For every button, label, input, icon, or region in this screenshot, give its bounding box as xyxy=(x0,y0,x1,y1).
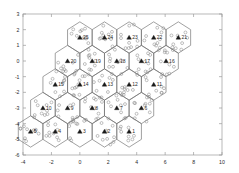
x-tick-label: -4 xyxy=(21,159,26,165)
cell-id-label: 13 xyxy=(108,81,114,87)
cell-id-label: 20 xyxy=(71,58,77,64)
user-equipment-marker xyxy=(148,111,151,114)
user-equipment-marker xyxy=(87,42,90,45)
user-equipment-marker xyxy=(149,68,152,71)
user-equipment-marker xyxy=(47,124,50,127)
base-station-marker xyxy=(151,35,156,39)
user-equipment-marker xyxy=(57,115,60,118)
user-equipment-marker xyxy=(111,45,114,48)
cell-id-label: 14 xyxy=(83,81,89,87)
cell-id-label: 25 xyxy=(83,34,89,40)
user-equipment-marker xyxy=(111,124,114,127)
user-equipment-marker xyxy=(36,104,39,107)
user-equipment-marker xyxy=(128,24,131,27)
user-equipment-marker xyxy=(54,123,57,126)
y-tick-label: -3 xyxy=(15,105,20,111)
user-equipment-marker xyxy=(108,65,111,68)
user-equipment-marker xyxy=(102,24,105,27)
user-equipment-marker xyxy=(108,53,111,56)
user-equipment-marker xyxy=(25,140,28,143)
user-equipment-marker xyxy=(144,70,147,73)
user-equipment-marker xyxy=(128,41,131,44)
user-equipment-marker xyxy=(120,37,123,40)
user-equipment-marker xyxy=(106,137,109,140)
user-equipment-marker xyxy=(115,94,118,97)
user-equipment-marker xyxy=(84,100,87,103)
user-equipment-marker xyxy=(51,77,54,80)
user-equipment-marker xyxy=(40,112,43,115)
user-equipment-marker xyxy=(181,42,184,45)
user-equipment-marker xyxy=(145,79,148,82)
user-equipment-marker xyxy=(101,138,104,141)
user-equipment-marker xyxy=(49,81,52,84)
cell-id-label: 6 xyxy=(145,105,148,111)
user-equipment-marker xyxy=(95,118,98,121)
user-equipment-marker xyxy=(81,75,84,78)
user-equipment-marker xyxy=(47,120,50,123)
user-equipment-marker xyxy=(84,97,87,100)
y-tick-label: -4 xyxy=(15,121,20,127)
user-equipment-marker xyxy=(136,45,139,48)
base-station-marker xyxy=(127,129,132,133)
cell-id-label: 16 xyxy=(169,58,175,64)
user-equipment-marker xyxy=(101,100,104,103)
user-equipment-marker xyxy=(100,122,103,125)
user-equipment-marker xyxy=(96,134,99,137)
x-tick-label: 6 xyxy=(164,159,167,165)
y-tick-label: 2 xyxy=(17,27,20,33)
user-equipment-marker xyxy=(70,32,73,35)
user-equipment-marker xyxy=(149,53,152,56)
base-station-marker xyxy=(102,129,107,133)
user-equipment-marker xyxy=(60,67,63,70)
base-station-group: 2524232221201918171615141312111098765432… xyxy=(28,34,187,134)
user-equipment-marker xyxy=(126,89,129,92)
base-station-marker xyxy=(139,106,144,110)
base-station-marker xyxy=(127,82,132,86)
base-station-marker xyxy=(114,106,119,110)
cell-id-label: 8 xyxy=(95,105,98,111)
user-equipment-marker xyxy=(56,136,59,139)
user-equipment-marker xyxy=(113,48,116,51)
user-equipment-marker xyxy=(26,128,29,131)
base-station-marker xyxy=(53,82,58,86)
y-tick-label: 3 xyxy=(17,11,20,17)
base-station-marker xyxy=(78,129,83,133)
user-equipment-marker xyxy=(48,134,51,137)
y-tick-label: 1 xyxy=(17,42,20,48)
y-tick-label: -6 xyxy=(15,152,20,158)
user-equipment-marker xyxy=(113,136,116,139)
user-equipment-marker xyxy=(95,89,98,92)
x-tick-label: 10 xyxy=(219,159,225,165)
user-equipment-marker xyxy=(172,43,175,46)
user-equipment-marker xyxy=(57,139,60,142)
cell-id-label: 15 xyxy=(58,81,64,87)
user-equipment-marker xyxy=(56,109,59,112)
x-tick-label: 4 xyxy=(135,159,138,165)
user-equipment-marker xyxy=(116,98,119,101)
user-equipment-marker xyxy=(110,105,113,108)
user-equipment-marker xyxy=(64,75,67,78)
x-tick-label: 8 xyxy=(192,159,195,165)
user-equipment-marker xyxy=(100,31,103,34)
user-equipment-marker xyxy=(145,35,148,38)
cell-id-label: 17 xyxy=(145,58,151,64)
user-equipment-marker xyxy=(111,30,114,33)
user-equipment-marker xyxy=(106,91,109,94)
base-station-marker xyxy=(164,59,169,63)
user-equipment-marker xyxy=(131,88,134,91)
cell-id-label: 2 xyxy=(108,128,111,134)
cell-id-label: 12 xyxy=(132,81,138,87)
user-equipment-marker xyxy=(93,64,96,67)
cell-id-label: 1 xyxy=(132,128,135,134)
user-equipment-marker xyxy=(146,96,149,99)
user-equipment-marker xyxy=(180,48,183,51)
user-equipment-marker xyxy=(137,68,140,71)
base-station-marker xyxy=(151,82,156,86)
user-equipment-marker xyxy=(133,134,136,137)
y-tick-label: -2 xyxy=(15,89,20,95)
cell-id-label: 9 xyxy=(71,105,74,111)
user-equipment-marker xyxy=(58,104,61,107)
user-equipment-marker xyxy=(137,58,140,61)
user-equipment-marker xyxy=(160,76,163,79)
user-equipment-marker xyxy=(63,90,66,93)
